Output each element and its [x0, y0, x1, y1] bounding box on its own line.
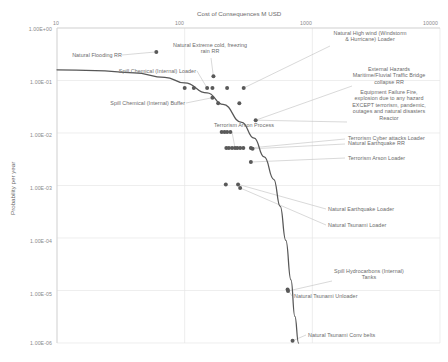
leader-line [232, 132, 235, 148]
annotation-spill-hydrocarbons-tanks: Spill Hydrocarbons (Internal) Tanks [320, 268, 418, 281]
data-point [192, 86, 196, 90]
leader-line [197, 71, 207, 88]
leader-line [238, 184, 326, 209]
y-tick-1e-4: 1.00E-04 [14, 238, 52, 244]
annotation-spill-chemical-buffer: Spill Chemical (Internal) Buffer [88, 100, 185, 106]
y-tick-1e-6: 1.00E-06 [14, 340, 52, 346]
annotation-natural-tsunami-conv-belts: Natural Tsunami Conv belts [308, 332, 412, 338]
annotation-natural-earthquake-loader: Natural Earthquake Loader [328, 206, 428, 212]
data-points [154, 50, 294, 343]
data-point [237, 101, 241, 105]
annotation-natural-tsunami-loader: Natural Tsunami Loader [328, 222, 428, 228]
risk-scatter-chart: Cost of Consequences M USD Probability p… [0, 0, 448, 362]
data-point [183, 86, 187, 90]
data-point [228, 130, 232, 134]
annotation-terrorism-arson-loader: Terrorism Arson Loader [348, 155, 446, 161]
y-tick-1e-3: 1.00E-03 [14, 185, 52, 191]
data-point [210, 86, 214, 90]
annotation-spill-chemical-loader: Spill Chemical (Internal) Loader [100, 68, 196, 74]
annotation-natural-tsunami-unloader: Natural Tsunami Unloader [294, 293, 394, 299]
x-axis-title: Cost of Consequences M USD [197, 10, 281, 17]
data-point [236, 182, 240, 186]
data-point [291, 339, 295, 343]
data-point [210, 96, 214, 100]
data-point [205, 86, 209, 90]
y-tick-1e-2: 1.00E-02 [14, 132, 52, 138]
y-tick-1e-5: 1.00E-05 [14, 291, 52, 297]
leader-line [122, 52, 156, 55]
leader-line [288, 281, 332, 291]
y-tick-1e0: 1.00E+00 [14, 26, 52, 32]
leader-line [211, 58, 213, 76]
leader-line [251, 158, 345, 162]
data-point [249, 160, 253, 164]
x-tick-10000: 10000 [423, 20, 438, 26]
data-point [216, 101, 220, 105]
data-point [238, 186, 242, 190]
annotation-natural-earthquake-rr: Natural Earthquake RR [348, 140, 446, 146]
annotation-natural-flooding-rr: Natural Flooding RR [50, 52, 122, 58]
data-point [211, 74, 215, 78]
annotation-natural-extreme-cold: Natural Extreme cold, freezing rain RR [165, 42, 255, 55]
data-point [251, 147, 255, 151]
data-point [225, 86, 229, 90]
data-point [242, 86, 246, 90]
annotation-equipment-failure-fire: Equipment Failure Fire, explosion due to… [337, 89, 441, 121]
leader-line [244, 46, 330, 88]
data-point [241, 146, 245, 150]
annotation-natural-high-wind: Natural High wind (Windstorm & Hurricane… [318, 30, 422, 43]
data-point [224, 182, 228, 186]
data-point [154, 50, 158, 54]
data-point [286, 289, 290, 293]
y-tick-1e-1: 1.00E-01 [14, 79, 52, 85]
risk-tolerance-curve [57, 70, 299, 343]
leader-line [293, 335, 306, 341]
annotation-external-hazards-bridge: External Hazards Maritime/Fluvial Traffi… [337, 66, 441, 85]
x-tick-10: 10 [53, 20, 59, 26]
leader-line [186, 98, 212, 103]
annotation-terrorism-arson-process: Terrorism Arson Process [214, 122, 302, 128]
x-tick-1000: 1000 [300, 20, 312, 26]
x-tick-100: 100 [175, 20, 184, 26]
